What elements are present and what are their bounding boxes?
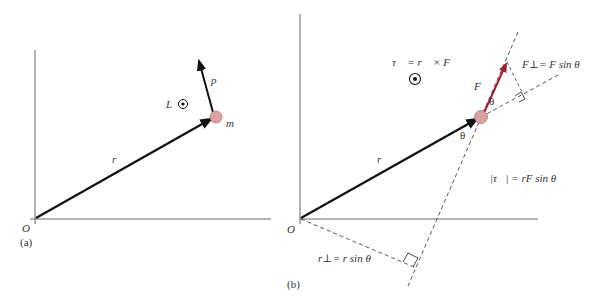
right-angle-marker-lever xyxy=(403,253,418,267)
angle-label-force: θ xyxy=(489,95,494,107)
figure-canvas: L⃗ p⃗ m r⃗ O (a) τ⃗ = r⃗ × F⃗ F⊥= F sin … xyxy=(0,0,589,306)
force-line-of-action xyxy=(408,32,518,286)
angular-momentum-label: L⃗ xyxy=(165,98,181,110)
caption-a: (a) xyxy=(20,236,33,249)
origin-label-b: O xyxy=(287,223,295,235)
mass-a xyxy=(210,111,222,123)
angle-label-lever: θ xyxy=(460,129,465,141)
out-of-page-icon-b xyxy=(410,74,421,85)
momentum-vector-a xyxy=(199,61,214,116)
torque-definition: τ⃗ = r⃗ × F⃗ xyxy=(392,56,458,68)
momentum-label: p⃗ xyxy=(210,74,225,86)
panel-b: τ⃗ = r⃗ × F⃗ F⊥= F sin θ F⃗ θ θ r⃗ |τ⃗| … xyxy=(287,14,580,291)
caption-b: (b) xyxy=(287,278,300,291)
mass-label-a: m xyxy=(226,117,234,129)
force-label: F⃗ xyxy=(473,80,489,92)
position-vector-a xyxy=(36,119,211,218)
mass-b xyxy=(475,111,488,124)
right-angle-marker-force xyxy=(515,92,525,102)
lever-arm-label: r⊥= r sin θ xyxy=(318,252,371,264)
panel-a: L⃗ p⃗ m r⃗ O (a) xyxy=(20,50,271,249)
position-label-a: r⃗ xyxy=(112,153,125,165)
force-perp-label: F⊥= F sin θ xyxy=(521,58,580,70)
force-perp-drop-line xyxy=(507,62,522,92)
position-label-b: r⃗ xyxy=(377,153,390,165)
torque-magnitude: |τ⃗| = rF sin θ xyxy=(490,172,557,184)
origin-label-a: O xyxy=(22,222,30,234)
position-vector-b xyxy=(301,119,477,218)
